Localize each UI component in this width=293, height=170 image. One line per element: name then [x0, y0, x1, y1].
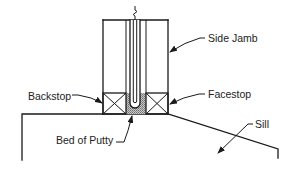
side-jamb-leader-arrow: [170, 38, 205, 52]
label-facestop: Facestop: [208, 88, 251, 100]
label-bed-of-putty: Bed of Putty: [56, 134, 114, 146]
facestop-block: [146, 93, 168, 114]
facestop-leader-arrow: [170, 94, 205, 104]
sill-leader-arrow: [218, 124, 253, 153]
label-sill: Sill: [255, 118, 269, 130]
backstop-leader-arrow: [72, 95, 102, 103]
label-side-jamb: Side Jamb: [208, 32, 258, 44]
break-line-icon: [133, 6, 137, 20]
glass-pane: [130, 20, 140, 108]
label-backstop: Backstop: [28, 90, 71, 102]
backstop-block: [103, 93, 126, 114]
sill-section-diagram: Side Jamb Backstop Facestop Bed of Putty…: [0, 0, 293, 170]
diagram-canvas: Side Jamb Backstop Facestop Bed of Putty…: [0, 0, 293, 170]
putty-leader-arrow: [116, 116, 132, 142]
